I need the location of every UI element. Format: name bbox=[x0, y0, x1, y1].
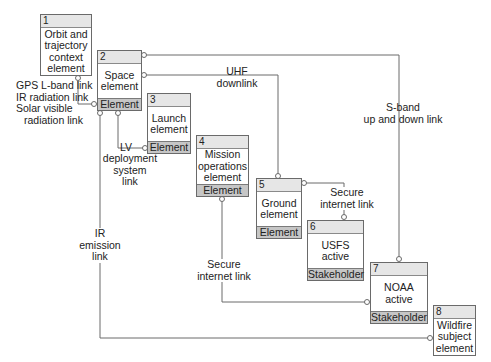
element-stereotype: Stakeholder bbox=[308, 268, 363, 280]
element-8-wildfire[interactable]: 8 Wildfire subject element bbox=[433, 305, 476, 356]
element-stereotype: Element bbox=[257, 226, 301, 238]
link-label-4-7: Secure internet link bbox=[194, 259, 254, 282]
label-line: element bbox=[260, 209, 297, 221]
port-7-top bbox=[397, 257, 402, 262]
label-line: Secure bbox=[194, 259, 254, 271]
element-stereotype: Stakeholder bbox=[371, 311, 427, 323]
element-1-orbit-trajectory[interactable]: 1 Orbit and trajectory context element bbox=[40, 14, 92, 76]
link-label-2-3-deployment: deployment system link bbox=[100, 153, 160, 188]
label-line: internet link bbox=[316, 199, 378, 211]
link-label-2-8-ir-emission: IR emission link bbox=[79, 228, 121, 263]
element-3-launch[interactable]: 3 Launch element Element bbox=[147, 93, 191, 154]
label-line: element bbox=[198, 172, 247, 184]
element-7-noaa[interactable]: 7 NOAA active Stakeholder bbox=[370, 262, 428, 324]
port-2-right-top bbox=[142, 53, 147, 58]
label-line: link bbox=[79, 251, 121, 263]
element-label: Space element bbox=[98, 64, 141, 98]
port-6-top bbox=[342, 215, 347, 220]
element-number: 6 bbox=[308, 221, 363, 234]
port-2-bottom-right bbox=[116, 111, 121, 116]
label-line: element bbox=[101, 81, 138, 93]
element-4-mission-operations[interactable]: 4 Mission operations element Element bbox=[196, 135, 249, 197]
element-number: 2 bbox=[98, 51, 141, 64]
link-label-2-5-uhf: UHF downlink bbox=[207, 66, 267, 89]
element-label: Launch element bbox=[148, 107, 190, 141]
element-number: 7 bbox=[371, 263, 427, 276]
element-label: Orbit and trajectory context element bbox=[41, 28, 91, 75]
port-7-left bbox=[365, 300, 370, 305]
label-line: element bbox=[436, 343, 473, 355]
label-line: element bbox=[44, 63, 87, 75]
label-line: NOAA bbox=[384, 282, 414, 294]
port-4-bottom bbox=[220, 197, 225, 202]
label-line: element bbox=[150, 124, 187, 136]
label-line: UHF bbox=[207, 66, 267, 78]
label-line: S-band bbox=[358, 102, 448, 114]
label-line: radiation link bbox=[16, 115, 92, 127]
link-label-5-6: Secure internet link bbox=[316, 187, 378, 210]
label-line: Secure bbox=[316, 187, 378, 199]
label-line: downlink bbox=[207, 78, 267, 90]
port-2-right-mid bbox=[142, 73, 147, 78]
label-line: link bbox=[100, 176, 160, 188]
element-number: 1 bbox=[41, 15, 91, 28]
element-number: 5 bbox=[257, 179, 301, 192]
label-line-text: radiation link bbox=[24, 114, 83, 126]
label-line: active bbox=[321, 251, 349, 263]
element-5-ground[interactable]: 5 Ground element Element bbox=[256, 178, 302, 239]
element-number: 4 bbox=[197, 136, 248, 149]
link-label-1-2: GPS L-band link IR radiation link Solar … bbox=[16, 80, 92, 126]
label-line: internet link bbox=[194, 271, 254, 283]
element-6-usfs[interactable]: 6 USFS active Stakeholder bbox=[307, 220, 364, 281]
element-label: Ground element bbox=[257, 192, 301, 226]
element-stereotype: Element bbox=[197, 184, 248, 196]
port-2-bottom-left bbox=[98, 111, 103, 116]
element-stereotype: Element bbox=[98, 98, 141, 110]
label-line: IR bbox=[79, 228, 121, 240]
label-line: deployment bbox=[100, 153, 160, 165]
port-8-left bbox=[428, 336, 433, 341]
element-number: 8 bbox=[434, 306, 475, 319]
label-line: trajectory bbox=[44, 40, 87, 52]
element-label: NOAA active bbox=[371, 276, 427, 311]
element-label: USFS active bbox=[308, 234, 363, 268]
link-label-2-7-sband: S-band up and down link bbox=[358, 102, 448, 125]
label-line: GPS L-band link bbox=[16, 80, 92, 92]
label-line: active bbox=[384, 294, 414, 306]
port-5-right bbox=[302, 181, 307, 186]
element-number: 3 bbox=[148, 94, 190, 107]
label-line: up and down link bbox=[358, 114, 448, 126]
element-label: Wildfire subject element bbox=[434, 319, 475, 355]
element-2-space[interactable]: 2 Space element Element bbox=[97, 50, 142, 111]
element-label: Mission operations element bbox=[197, 149, 248, 184]
